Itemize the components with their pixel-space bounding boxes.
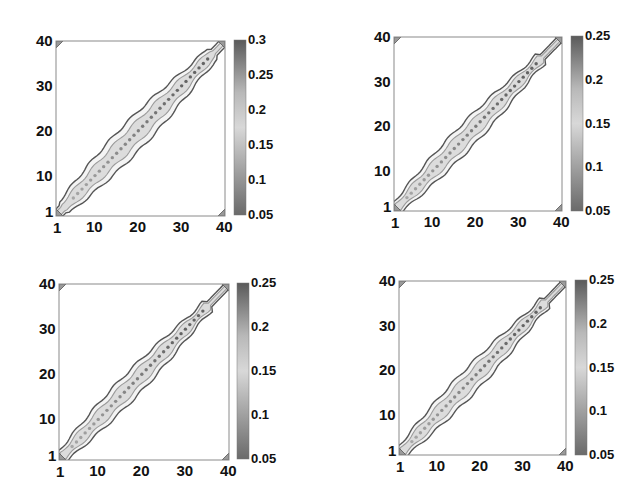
x-tick-label: 20 [471, 458, 488, 473]
colorbar [575, 280, 587, 455]
x-tick-label: 10 [429, 458, 446, 473]
y-tick-label: 1 [388, 443, 396, 458]
y-tick-label: 40 [379, 273, 396, 288]
colorbar-tick-label: 0.1 [589, 404, 607, 417]
y-tick-label: 30 [379, 318, 396, 333]
contour-plot-bottom-right [0, 0, 644, 498]
colorbar-tick-label: 0.2 [589, 317, 607, 330]
x-tick-label: 30 [514, 458, 531, 473]
colorbar-tick-label: 0.05 [589, 448, 614, 461]
colorbar-tick-label: 0.15 [589, 361, 614, 374]
x-tick-label: 40 [557, 458, 574, 473]
x-tick-label: 1 [396, 459, 404, 474]
colorbar-tick-label: 0.25 [589, 273, 614, 286]
inner-contour [397, 280, 567, 457]
y-tick-label: 20 [379, 362, 396, 377]
y-tick-label: 10 [379, 407, 396, 422]
